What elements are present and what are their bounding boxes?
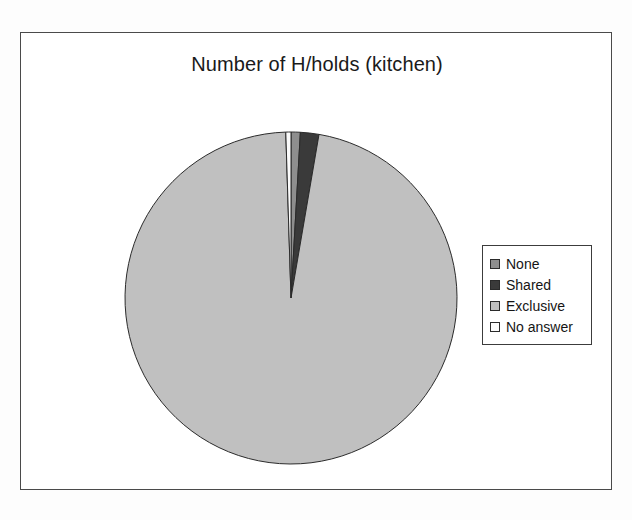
legend-item-shared[interactable]: Shared <box>490 274 585 295</box>
legend-swatch-exclusive <box>490 301 500 311</box>
legend-swatch-none <box>490 259 500 269</box>
legend-item-none[interactable]: None <box>490 253 585 274</box>
legend-label-none: None <box>506 257 539 271</box>
legend-swatch-shared <box>490 280 500 290</box>
legend-item-exclusive[interactable]: Exclusive <box>490 295 585 316</box>
chart-frame: Number of H/holds (kitchen) None Shared … <box>20 32 612 490</box>
chart-legend: None Shared Exclusive No answer <box>482 245 592 345</box>
pie-svg <box>124 131 458 465</box>
chart-canvas: Number of H/holds (kitchen) None Shared … <box>0 0 632 520</box>
legend-item-no-answer[interactable]: No answer <box>490 316 585 337</box>
pie-slices <box>125 132 457 464</box>
legend-label-no-answer: No answer <box>506 320 573 334</box>
chart-title: Number of H/holds (kitchen) <box>21 53 613 76</box>
legend-label-shared: Shared <box>506 278 551 292</box>
pie-chart <box>124 131 458 465</box>
legend-swatch-no-answer <box>490 322 500 332</box>
legend-label-exclusive: Exclusive <box>506 299 565 313</box>
